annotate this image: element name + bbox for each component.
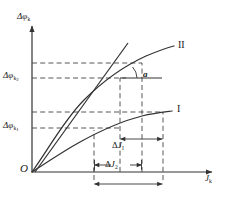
diagram-canvas: [0, 0, 226, 199]
y-tick-k2-sub2: 2: [16, 77, 18, 82]
y-tick-label-k2: Δφk2: [3, 71, 19, 80]
delta-j2-span: [95, 160, 142, 170]
y-tick-label-k1: Δφk1: [3, 121, 19, 130]
origin-label: O: [20, 163, 28, 174]
y-axis-label: Δφk: [17, 12, 30, 21]
curve-label-I: I: [177, 104, 180, 114]
reference-lines-group: [32, 63, 163, 180]
curves-group: [32, 46, 174, 172]
delta-j2-sub: 2: [115, 164, 118, 170]
curve-label-II: II: [178, 40, 185, 50]
delta-j1-label: ΔJI: [112, 141, 124, 150]
delta-j2-label: ΔJ2: [105, 160, 118, 169]
y-tick-k2-symbol: Δφ: [3, 70, 13, 80]
x-axis-label: Jk: [205, 174, 212, 183]
y-axis-label-sub: k: [27, 16, 30, 22]
y-tick-k1-symbol: Δφ: [3, 120, 13, 130]
y-axis-label-symbol: Δφ: [17, 11, 27, 21]
tangent-line: [35, 43, 128, 172]
figure-container: Δφk Jk O Δφk2 Δφk1 II I a ΔJI ΔJ2: [0, 0, 226, 199]
angle-label-a: a: [143, 70, 148, 79]
y-tick-k1-sub2: 1: [16, 127, 18, 132]
delta-j1-sub: I: [122, 145, 124, 151]
curve-2-path: [32, 46, 174, 172]
x-axis-label-sub: k: [209, 178, 212, 184]
angle-arc: [133, 67, 137, 78]
